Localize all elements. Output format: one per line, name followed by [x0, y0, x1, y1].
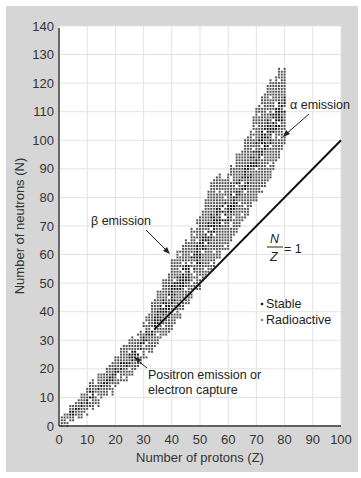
y-axis-label: Number of neutrons (N): [12, 158, 27, 295]
legend-radioactive-marker: [261, 319, 264, 322]
alpha-emission-label: α emission: [290, 98, 350, 112]
x-tick-label: 30: [136, 432, 150, 447]
y-tick-label: 130: [32, 47, 54, 62]
x-axis-label: Number of protons (Z): [136, 450, 264, 465]
nuclide-stability-chart: 0102030405060708090100010203040506070809…: [0, 0, 361, 478]
svg-text:Z: Z: [269, 250, 278, 264]
y-tick-label: 120: [32, 76, 54, 91]
y-tick-label: 110: [33, 104, 54, 119]
x-tick-label: 100: [330, 432, 352, 447]
legend-stable-marker: [261, 303, 264, 306]
x-tick-label: 70: [249, 432, 263, 447]
x-tick-label: 50: [193, 432, 207, 447]
x-tick-label: 60: [221, 432, 235, 447]
y-tick-label: 40: [40, 304, 54, 319]
y-tick-label: 100: [32, 133, 54, 148]
y-tick-label: 30: [40, 333, 54, 348]
positron-emission-label-line1: Positron emission or: [148, 368, 261, 382]
x-tick-label: 0: [55, 432, 62, 447]
x-tick-label: 40: [165, 432, 179, 447]
y-tick-label: 70: [40, 219, 54, 234]
positron-emission-label-line2: electron capture: [148, 383, 238, 397]
legend-radioactive-label: Radioactive: [266, 313, 331, 327]
y-tick-label: 0: [47, 419, 54, 434]
y-tick-label: 20: [40, 361, 54, 376]
y-tick-label: 50: [40, 276, 54, 291]
x-tick-label: 10: [80, 432, 94, 447]
x-tick-label: 80: [277, 432, 291, 447]
svg-text:N: N: [270, 232, 280, 246]
x-tick-label: 20: [108, 432, 122, 447]
y-tick-label: 80: [40, 190, 54, 205]
y-tick-label: 60: [40, 247, 54, 262]
x-tick-label: 90: [306, 432, 320, 447]
y-tick-label: 10: [40, 390, 54, 405]
beta-emission-label: β emission: [91, 214, 151, 228]
svg-text:= 1: = 1: [284, 242, 302, 256]
legend-stable-label: Stable: [266, 297, 301, 311]
y-tick-label: 140: [32, 19, 54, 34]
y-tick-label: 90: [40, 161, 54, 176]
